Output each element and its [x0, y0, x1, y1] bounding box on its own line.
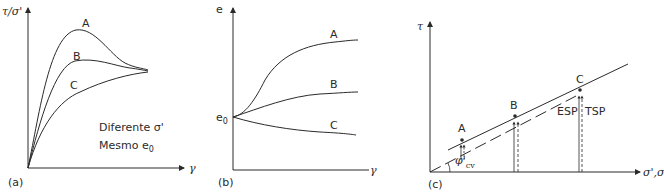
- panel-c-critical-line: [430, 96, 576, 172]
- panel-a-y-label: τ/σ': [2, 5, 22, 18]
- panel-b-x-label: γ: [370, 164, 377, 177]
- panel-c-y-label: τ: [417, 20, 424, 33]
- panel-a-tag: (a): [8, 176, 23, 189]
- panel-b: e γ e0 A B C (b): [216, 3, 377, 189]
- panel-b-y-label: e: [216, 3, 223, 16]
- panel-b-curve-a: [233, 40, 358, 117]
- panel-a: τ/σ' γ A B C Diferente σ' Mesmo e0 (a): [2, 5, 196, 189]
- panel-a-curve-c: [28, 72, 148, 168]
- panel-c-tag: (c): [428, 178, 443, 191]
- panel-a-label-c: C: [70, 79, 78, 92]
- panel-a-label-a: A: [82, 17, 90, 30]
- panel-c-angle-label: φ'cv: [455, 154, 475, 170]
- panel-a-label-b: B: [73, 50, 81, 63]
- panel-b-curve-b: [233, 92, 358, 117]
- panel-c-label-c: C: [576, 73, 584, 86]
- panel-a-x-label: γ: [189, 162, 196, 175]
- panel-c-angle-arc: [448, 163, 450, 172]
- panel-b-label-b: B: [330, 78, 338, 91]
- panel-b-origin-label: e0: [216, 111, 228, 126]
- panel-c-label-a: A: [458, 122, 466, 135]
- panel-b-label-c: C: [330, 119, 338, 132]
- panel-c-point-a: [460, 138, 464, 142]
- panel-a-note-line2: Mesmo e0: [99, 139, 154, 154]
- panel-b-tag: (b): [218, 176, 234, 189]
- panel-c: τ σ',σ φ'cv A B C ESP TSP (c): [417, 20, 664, 191]
- panel-b-label-a: A: [330, 28, 338, 41]
- panel-c-tsp-label: TSP: [584, 105, 606, 118]
- panel-c-point-c: [578, 88, 582, 92]
- panel-a-note-line1: Diferente σ': [99, 121, 164, 134]
- panel-c-label-b: B: [510, 99, 518, 112]
- panel-c-x-label: σ',σ: [643, 166, 664, 179]
- panel-c-esp-label: ESP: [557, 105, 578, 118]
- soil-behavior-diagram: τ/σ' γ A B C Diferente σ' Mesmo e0 (a) e…: [0, 0, 664, 194]
- panel-c-point-b: [513, 114, 517, 118]
